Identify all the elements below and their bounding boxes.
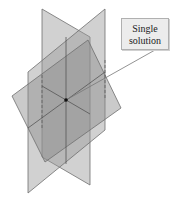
callout-line-1: Single xyxy=(122,23,168,35)
solution-point xyxy=(64,98,68,102)
callout-line-2: solution xyxy=(122,35,168,47)
callout-label: Single solution xyxy=(121,18,169,50)
